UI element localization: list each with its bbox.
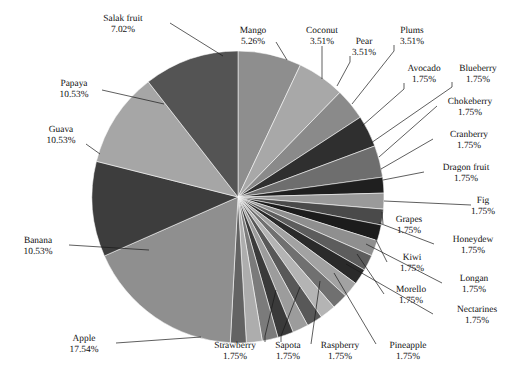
slice-label-cranberry: Cranberry1.75% [450,130,488,151]
slice-label-value-longan: 1.75% [462,285,486,295]
slice-label-raspberry: Raspberry1.75% [321,341,360,362]
slice-label-value-coconut: 3.51% [310,37,334,47]
slice-label-name-plums: Plums [400,26,424,36]
leader-line-kiwi [373,234,387,262]
slice-label-name-papaya: Papaya [60,79,88,89]
slice-label-value-mango: 5.26% [241,37,265,47]
pie-chart-figure: Salak fruit 7.02%Mango 5.26%Coconut 3.51… [0,0,510,386]
slice-label-avocado: Avocado1.75% [407,64,440,85]
slice-label-longan: Longan1.75% [460,274,489,295]
slice-label-pineapple: Pineapple1.75% [390,341,427,362]
slice-label-name-avocado: Avocado [407,64,440,74]
slice-label-name-guava: Guava [49,125,74,135]
slice-label-name-apple: Apple [73,334,96,344]
slice-label-name-fig: Fig [477,196,490,206]
slice-label-fig: Fig1.75% [471,196,495,217]
leader-line-salak-fruit [170,23,223,56]
leader-line-blueberry [371,82,452,143]
slice-label-name-cranberry: Cranberry [450,130,488,140]
slice-label-banana: Banana10.53% [24,236,53,257]
leader-line-pear [337,56,350,86]
slice-label-name-blueberry: Blueberry [459,64,497,74]
slice-label-kiwi: Kiwi1.75% [400,253,424,274]
slice-label-papaya: Papaya10.53% [60,79,89,100]
leader-line-dragon-fruit [383,172,424,180]
slice-label-value-apple: 17.54% [70,345,99,355]
slice-label-name-pineapple: Pineapple [390,341,427,351]
slice-label-value-grapes: 1.75% [397,226,421,236]
slice-label-strawberry: Strawberry1.75% [214,341,256,362]
slice-label-name-strawberry: Strawberry [214,341,256,351]
slice-label-value-pear: 3.51% [352,48,376,58]
leader-line-cranberry [381,139,433,169]
slice-label-value-cranberry: 1.75% [457,141,481,151]
slice-label-name-chokeberry: Chokeberry [448,97,493,107]
slice-label-value-banana: 10.53% [24,247,53,257]
slice-label-value-pineapple: 1.75% [396,352,420,362]
leader-line-guava [86,144,100,154]
slice-label-name-nectarines: Nectarines [457,305,497,315]
slice-label-value-plums: 3.51% [400,37,424,47]
slice-label-name-salak-fruit: Salak fruit [103,14,143,24]
slice-label-nectarines: Nectarines1.75% [457,305,497,326]
slice-label-name-honeydew: Honeydew [453,235,494,245]
slice-label-name-kiwi: Kiwi [403,253,422,263]
pie-slices-group: Salak fruit 7.02%Mango 5.26%Coconut 3.51… [92,51,384,343]
slice-label-value-kiwi: 1.75% [400,264,424,274]
slice-label-salak-fruit: Salak fruit7.02% [103,14,143,35]
slice-label-morello: Morello1.75% [396,285,427,306]
slice-label-value-dragon-fruit: 1.75% [454,174,478,184]
slice-label-value-chokeberry: 1.75% [458,108,482,118]
slice-label-name-coconut: Coconut [306,26,338,36]
leader-line-avocado [362,83,404,126]
slice-label-value-raspberry: 1.75% [328,352,352,362]
slice-label-dragon-fruit: Dragon fruit1.75% [443,163,490,184]
slice-label-honeydew: Honeydew1.75% [453,235,494,256]
slice-label-value-papaya: 10.53% [60,90,89,100]
slice-label-coconut: Coconut3.51% [306,26,338,47]
slice-label-mango: Mango5.26% [240,26,267,47]
slice-label-sapota: Sapota1.75% [275,341,301,362]
slice-label-name-longan: Longan [460,274,489,284]
slice-label-value-honeydew: 1.75% [461,246,485,256]
slice-label-value-strawberry: 1.75% [223,352,247,362]
slice-label-chokeberry: Chokeberry1.75% [448,97,493,118]
slice-label-value-guava: 10.53% [47,136,76,146]
slice-label-value-fig: 1.75% [471,207,495,217]
slice-label-value-morello: 1.75% [399,296,423,306]
slice-label-name-raspberry: Raspberry [321,341,360,351]
slice-label-name-mango: Mango [240,26,267,36]
slice-label-name-banana: Banana [24,236,53,246]
slice-label-grapes: Grapes1.75% [396,215,423,236]
slice-label-value-avocado: 1.75% [412,75,436,85]
slice-label-name-dragon-fruit: Dragon fruit [443,163,490,173]
slice-label-name-pear: Pear [356,37,374,47]
slice-label-pear: Pear3.51% [352,37,376,58]
slice-label-value-sapota: 1.75% [276,352,300,362]
slice-label-blueberry: Blueberry1.75% [459,64,497,85]
slice-label-apple: Apple17.54% [70,334,99,355]
slice-label-value-salak-fruit: 7.02% [111,25,135,35]
slice-label-name-sapota: Sapota [275,341,301,351]
pie-chart-svg: Salak fruit 7.02%Mango 5.26%Coconut 3.51… [0,0,510,386]
leader-line-fig [384,201,471,205]
slice-label-value-blueberry: 1.75% [466,75,490,85]
slice-label-name-grapes: Grapes [396,215,423,225]
slice-label-guava: Guava10.53% [47,125,76,146]
slice-label-plums: Plums3.51% [400,26,424,47]
slice-label-value-nectarines: 1.75% [465,316,489,326]
slice-label-name-morello: Morello [396,285,427,295]
leader-line-apple [116,337,201,343]
